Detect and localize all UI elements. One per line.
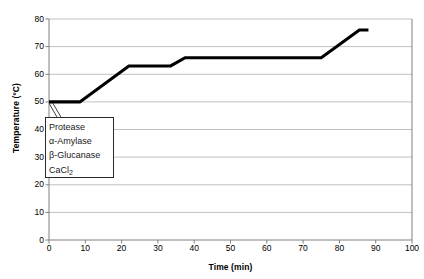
x-axis-title: Time (min)	[49, 262, 412, 272]
x-tick-100: 100	[397, 243, 424, 253]
y-tick-50: 50	[20, 97, 44, 106]
x-tick-0: 0	[34, 243, 64, 253]
callout-cacl2-main: CaCl	[49, 165, 69, 175]
x-tick-50: 50	[216, 243, 246, 253]
temperature-time-chart: 80 70 60 50 40 30 20 10 0 0 10 20 30 40 …	[0, 0, 424, 279]
callout-cacl2-subscript: 2	[69, 168, 73, 175]
callout-line-glucanase: β-Glucanase	[49, 148, 113, 162]
x-tick-90: 90	[361, 243, 391, 253]
enzyme-addition-callout: Protease α-Amylase β-Glucanase CaCl2	[45, 117, 114, 178]
x-tick-20: 20	[107, 243, 137, 253]
x-tick-70: 70	[288, 243, 318, 253]
x-tick-10: 10	[70, 243, 100, 253]
y-tick-30: 30	[20, 153, 44, 162]
x-tick-40: 40	[179, 243, 209, 253]
y-axis-title: Temperature (ºC)	[11, 58, 21, 178]
callout-line-protease: Protease	[49, 120, 113, 134]
y-tick-70: 70	[20, 42, 44, 51]
x-tick-80: 80	[324, 243, 354, 253]
x-tick-30: 30	[143, 243, 173, 253]
x-tick-60: 60	[252, 243, 282, 253]
y-tick-40: 40	[20, 125, 44, 134]
callout-line-calcium-chloride: CaCl2	[49, 163, 113, 180]
callout-line-amylase: α-Amylase	[49, 134, 113, 148]
y-tick-80: 80	[20, 15, 44, 24]
y-tick-60: 60	[20, 70, 44, 79]
y-tick-10: 10	[20, 208, 44, 217]
y-tick-20: 20	[20, 180, 44, 189]
